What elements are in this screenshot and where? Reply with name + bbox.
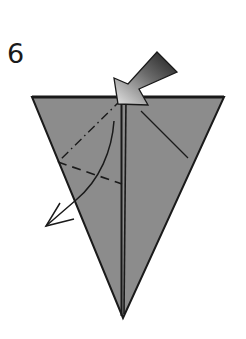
origami-diagram	[0, 0, 246, 339]
paper-shape	[32, 97, 224, 318]
